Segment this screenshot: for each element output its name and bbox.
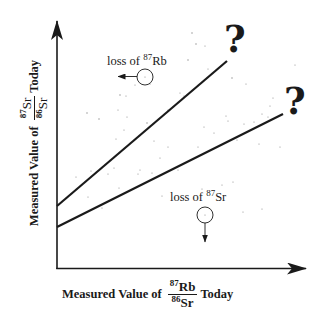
question-mark-upper-icon: ? bbox=[224, 21, 246, 58]
sr-loss-element: Sr bbox=[215, 190, 226, 204]
x-num-mass: 87 bbox=[170, 278, 179, 288]
y-axis-label: Measured Value of 87Sr 86Sr Today bbox=[19, 43, 49, 243]
x-axis-label: Measured Value of 87Rb 86Sr Today bbox=[62, 279, 233, 309]
sr-loss-prefix: loss of bbox=[170, 190, 203, 204]
y-axis-fraction-numerator: 87Sr bbox=[20, 96, 35, 121]
sr-loss-label: loss of 87Sr bbox=[170, 191, 226, 204]
x-axis-fraction-denominator: 86Sr bbox=[170, 295, 196, 309]
x-axis-label-prefix: Measured Value of bbox=[62, 288, 162, 301]
rb-loss-mass: 87 bbox=[143, 52, 152, 62]
y-axis-label-prefix: Measured Value of bbox=[28, 126, 41, 226]
x-den-mass: 86 bbox=[172, 294, 181, 304]
y-axis-fraction-denominator: 86Sr bbox=[35, 96, 49, 121]
x-num-element: Rb bbox=[179, 279, 196, 294]
y-den-mass: 86 bbox=[34, 109, 44, 118]
y-num-element: Sr bbox=[19, 98, 34, 110]
rb-loss-element: Rb bbox=[152, 54, 167, 68]
x-axis-fraction-numerator: 87Rb bbox=[168, 280, 198, 295]
y-axis-fraction: 87Sr 86Sr bbox=[20, 96, 49, 121]
y-num-mass: 87 bbox=[18, 109, 28, 118]
y-den-element: Sr bbox=[35, 98, 50, 110]
x-den-element: Sr bbox=[181, 295, 194, 310]
sr-loss-mass: 87 bbox=[206, 188, 215, 198]
rb-loss-prefix: loss of bbox=[107, 54, 140, 68]
question-mark-lower-icon: ? bbox=[284, 83, 306, 120]
x-axis-label-suffix: Today bbox=[200, 288, 233, 301]
y-axis-label-suffix: Today bbox=[28, 60, 41, 93]
isochron-diagram: ? ? loss of 87Rb loss of 87Sr Measured V… bbox=[0, 0, 326, 315]
x-axis-fraction: 87Rb 86Sr bbox=[168, 280, 198, 309]
rb-loss-label: loss of 87Rb bbox=[107, 55, 167, 68]
